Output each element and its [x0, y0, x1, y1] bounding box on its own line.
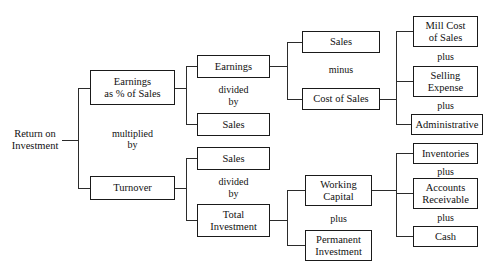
connector-earnings-spine — [287, 42, 288, 99]
operator-plus-accounts-receivable: plus — [413, 210, 478, 225]
roi-breakdown-diagram: Return onInvestment Earningsas % of Sale… — [0, 0, 501, 270]
connector-cost-of-sales-stub — [380, 99, 396, 100]
connector-to-sales-numerator — [186, 158, 197, 159]
node-working-capital: WorkingCapital — [305, 175, 372, 206]
node-turnover: Turnover — [90, 176, 175, 200]
connector-earnings-pct-spine — [186, 66, 187, 124]
node-cash-label: Cash — [433, 231, 458, 243]
node-earnings-as-pct-of-sales-label: Earningsas % of Sales — [102, 76, 162, 100]
connector-root-spine — [78, 88, 79, 188]
operator-divided-by-bottom-label: dividedby — [219, 176, 249, 199]
node-permanent-investment: PermanentInvestment — [305, 230, 372, 261]
node-total-investment-label: TotalInvestment — [208, 209, 259, 233]
node-turnover-label: Turnover — [111, 182, 154, 194]
operator-plus-mill-cost: plus — [413, 49, 478, 65]
operator-plus-working-capital-label: plus — [330, 213, 347, 225]
node-sales-revenue-label: Sales — [328, 36, 354, 48]
operator-plus-selling-expense-label: plus — [437, 100, 454, 112]
node-sales-numerator: Sales — [197, 147, 270, 170]
operator-plus-inventories: plus — [413, 165, 478, 179]
node-selling-expense-label: SellingExpense — [426, 70, 466, 94]
connector-earnings-stub — [270, 66, 287, 67]
node-return-on-investment-label: Return onInvestment — [12, 128, 59, 152]
node-sales-denominator-label: Sales — [220, 119, 246, 131]
connector-turnover-spine — [186, 158, 187, 220]
operator-plus-working-capital: plus — [305, 209, 372, 229]
operator-plus-selling-expense: plus — [413, 98, 478, 113]
operator-divided-by-top-label: dividedby — [219, 84, 249, 107]
node-administrative: Administrative — [411, 114, 483, 135]
node-earnings-as-pct-of-sales: Earningsas % of Sales — [90, 70, 175, 105]
node-cash: Cash — [413, 226, 478, 247]
operator-minus: minus — [302, 58, 380, 82]
node-mill-cost-of-sales-label: Mill Costof Sales — [424, 20, 468, 44]
operator-plus-accounts-receivable-label: plus — [437, 212, 454, 224]
node-earnings: Earnings — [197, 55, 270, 78]
operator-divided-by-top: dividedby — [197, 82, 270, 109]
connector-earnings-pct-stub — [175, 88, 186, 89]
node-mill-cost-of-sales: Mill Costof Sales — [413, 16, 478, 47]
connector-to-inventories — [396, 153, 413, 154]
connector-to-sales-denominator — [186, 124, 197, 125]
connector-turnover-stub — [175, 188, 186, 189]
node-working-capital-label: WorkingCapital — [318, 179, 358, 203]
operator-multiplied-by: multipliedby — [90, 126, 175, 152]
node-sales-revenue: Sales — [302, 31, 380, 53]
connector-root-stub — [62, 140, 78, 141]
node-cost-of-sales-label: Cost of Sales — [311, 93, 370, 105]
connector-working-capital-spine — [396, 153, 397, 236]
operator-divided-by-bottom: dividedby — [197, 174, 270, 201]
node-permanent-investment-label: PermanentInvestment — [313, 234, 364, 258]
connector-root-to-turnover — [78, 188, 90, 189]
connector-working-capital-stub — [372, 190, 396, 191]
connector-root-to-earnings-pct — [78, 88, 90, 89]
node-sales-denominator: Sales — [197, 113, 270, 136]
connector-to-working-capital — [287, 190, 305, 191]
node-total-investment: TotalInvestment — [197, 204, 270, 237]
operator-plus-inventories-label: plus — [437, 166, 454, 178]
node-sales-numerator-label: Sales — [220, 153, 246, 165]
connector-to-cost-of-sales — [287, 99, 302, 100]
node-inventories: Inventories — [413, 143, 478, 164]
node-cost-of-sales: Cost of Sales — [302, 88, 380, 110]
connector-to-total-investment — [186, 220, 197, 221]
operator-plus-mill-cost-label: plus — [437, 51, 454, 63]
connector-to-mill-cost — [396, 31, 413, 32]
operator-minus-label: minus — [329, 64, 353, 76]
connector-to-permanent-investment — [287, 245, 305, 246]
node-selling-expense: SellingExpense — [413, 66, 478, 97]
node-accounts-receivable-label: AccountsReceivable — [420, 182, 471, 206]
node-inventories-label: Inventories — [420, 148, 471, 160]
connector-to-cash — [396, 236, 413, 237]
connector-total-investment-stub — [270, 220, 287, 221]
connector-to-earnings — [186, 66, 197, 67]
connector-to-accounts-receivable — [396, 193, 413, 194]
node-accounts-receivable: AccountsReceivable — [413, 178, 478, 209]
node-administrative-label: Administrative — [414, 119, 481, 131]
node-earnings-label: Earnings — [213, 61, 254, 73]
operator-multiplied-by-label: multipliedby — [112, 128, 153, 151]
connector-total-investment-spine — [287, 190, 288, 245]
connector-to-selling-expense — [396, 81, 413, 82]
connector-to-sales-top — [287, 42, 302, 43]
node-return-on-investment: Return onInvestment — [6, 126, 64, 154]
connector-cost-of-sales-spine — [396, 31, 397, 124]
